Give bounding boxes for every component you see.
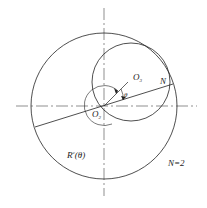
arrow-head-icon	[114, 88, 118, 94]
label-o2: O2	[92, 109, 102, 120]
label-radius-function: Rc(θ)	[66, 150, 85, 160]
cam-profile-diagram: O3 O2 N θ Rc(θ) N=2	[0, 0, 207, 208]
inner-circle	[92, 43, 170, 121]
label-theta: θ	[124, 91, 128, 99]
label-n-point: N	[159, 76, 167, 86]
rotation-arc	[84, 86, 118, 126]
label-n-value: N=2	[167, 158, 185, 168]
label-o3: O3	[133, 72, 143, 83]
